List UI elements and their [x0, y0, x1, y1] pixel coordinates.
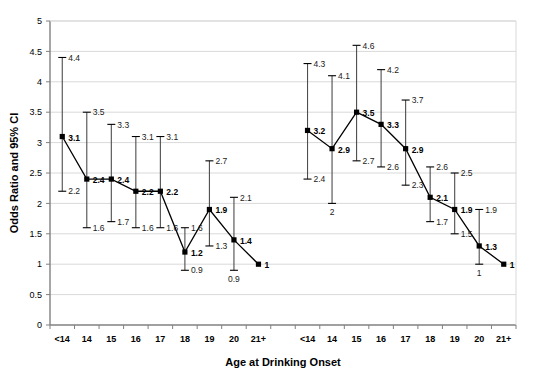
y-tick-label: 0.5 — [29, 290, 42, 300]
data-point-label: 1 — [510, 260, 515, 270]
data-point-label: 1.9 — [461, 205, 473, 215]
ci-lower-label: 2.4 — [314, 174, 326, 184]
ci-lower-label: 1.6 — [93, 223, 105, 233]
y-axis-title: Odds Ratio and 95% CI — [8, 113, 20, 233]
ci-lower-label: 1 — [477, 268, 482, 278]
odds-ratio-chart: 00.511.522.533.544.55<141415161718192021… — [0, 0, 540, 374]
data-point-marker[interactable] — [182, 249, 187, 254]
x-category-label: 21+ — [496, 334, 511, 344]
x-category-label: 16 — [131, 334, 141, 344]
data-point-label: 2.2 — [142, 187, 154, 197]
data-point-marker[interactable] — [354, 110, 359, 115]
x-category-label: 18 — [180, 334, 190, 344]
ci-upper-label: 2.7 — [215, 156, 227, 166]
ci-lower-label: 1.6 — [166, 223, 178, 233]
data-point-marker[interactable] — [256, 262, 261, 267]
ci-lower-label: 2.2 — [68, 186, 80, 196]
data-point-marker[interactable] — [379, 122, 384, 127]
y-tick-label: 0 — [37, 320, 42, 330]
data-point-marker[interactable] — [403, 146, 408, 151]
ci-lower-label: 1.7 — [117, 217, 129, 227]
data-point-marker[interactable] — [477, 243, 482, 248]
y-tick-label: 2.5 — [29, 168, 42, 178]
x-category-label: 19 — [450, 334, 460, 344]
ci-upper-label: 1.9 — [485, 205, 497, 215]
data-point-label: 3.3 — [387, 120, 399, 130]
ci-upper-label: 3.7 — [412, 95, 424, 105]
ci-lower-label: 2.3 — [412, 180, 424, 190]
ci-upper-label: 4.1 — [338, 71, 350, 81]
data-point-label: 1.9 — [215, 205, 227, 215]
data-point-label: 1 — [264, 260, 269, 270]
ci-lower-label: 0.9 — [191, 265, 203, 275]
data-point-label: 1.4 — [240, 236, 252, 246]
ci-upper-label: 3.5 — [93, 107, 105, 117]
x-category-label: 16 — [376, 334, 386, 344]
ci-lower-label: 2.6 — [387, 162, 399, 172]
x-category-label: 18 — [425, 334, 435, 344]
ci-lower-label: 1.6 — [142, 223, 154, 233]
data-point-label: 2.9 — [412, 145, 424, 155]
x-category-label: <14 — [300, 334, 315, 344]
ci-lower-label: 0.9 — [228, 274, 240, 284]
ci-upper-label: 4.6 — [363, 41, 375, 51]
ci-lower-label: 1.7 — [436, 217, 448, 227]
x-category-label: 15 — [352, 334, 362, 344]
chart-canvas: 00.511.522.533.544.55<141415161718192021… — [0, 0, 540, 374]
x-category-label: 15 — [106, 334, 116, 344]
data-point-marker[interactable] — [84, 176, 89, 181]
data-point-label: 3.1 — [68, 133, 80, 143]
y-tick-label: 4 — [37, 77, 42, 87]
data-point-marker[interactable] — [305, 128, 310, 133]
y-tick-label: 4.5 — [29, 47, 42, 57]
x-category-label: 20 — [229, 334, 239, 344]
x-category-label: <14 — [55, 334, 70, 344]
y-tick-label: 3 — [37, 138, 42, 148]
ci-upper-label: 4.3 — [314, 59, 326, 69]
ci-upper-label: 4.4 — [68, 53, 80, 63]
data-point-marker[interactable] — [133, 189, 138, 194]
ci-upper-label: 2.5 — [461, 168, 473, 178]
data-point-label: 1.3 — [485, 242, 497, 252]
data-point-label: 3.5 — [363, 108, 375, 118]
data-point-marker[interactable] — [501, 262, 506, 267]
y-tick-label: 1 — [37, 259, 42, 269]
data-point-label: 2.1 — [436, 193, 448, 203]
ci-upper-label: 4.2 — [387, 65, 399, 75]
ci-upper-label: 1.6 — [191, 223, 203, 233]
data-point-marker[interactable] — [109, 176, 114, 181]
x-category-label: 19 — [204, 334, 214, 344]
data-point-label: 2.2 — [166, 187, 178, 197]
data-point-marker[interactable] — [60, 134, 65, 139]
ci-lower-label: 2 — [330, 207, 335, 217]
y-tick-label: 2 — [37, 199, 42, 209]
x-category-label: 17 — [401, 334, 411, 344]
x-category-label: 17 — [155, 334, 165, 344]
ci-upper-label: 3.3 — [117, 120, 129, 130]
data-point-marker[interactable] — [158, 189, 163, 194]
x-category-label: 14 — [327, 334, 337, 344]
x-category-label: 20 — [474, 334, 484, 344]
data-point-label: 1.2 — [191, 248, 203, 258]
ci-upper-label: 3.1 — [142, 132, 154, 142]
data-point-marker[interactable] — [207, 207, 212, 212]
data-point-label: 3.2 — [314, 126, 326, 136]
x-category-label: 21+ — [251, 334, 266, 344]
ci-lower-label: 1.5 — [461, 229, 473, 239]
data-point-marker[interactable] — [231, 237, 236, 242]
data-point-marker[interactable] — [452, 207, 457, 212]
data-point-marker[interactable] — [329, 146, 334, 151]
ci-upper-label: 2.6 — [436, 162, 448, 172]
y-tick-label: 3.5 — [29, 107, 42, 117]
data-point-label: 2.9 — [338, 145, 350, 155]
data-point-marker[interactable] — [428, 195, 433, 200]
ci-upper-label: 3.1 — [166, 132, 178, 142]
data-point-label: 2.4 — [117, 175, 129, 185]
x-axis-title: Age at Drinking Onset — [225, 356, 341, 368]
x-category-label: 14 — [82, 334, 92, 344]
y-tick-label: 5 — [37, 16, 42, 26]
data-point-label: 2.4 — [93, 175, 105, 185]
ci-lower-label: 2.7 — [363, 156, 375, 166]
y-tick-label: 1.5 — [29, 229, 42, 239]
ci-lower-label: 1.3 — [215, 241, 227, 251]
